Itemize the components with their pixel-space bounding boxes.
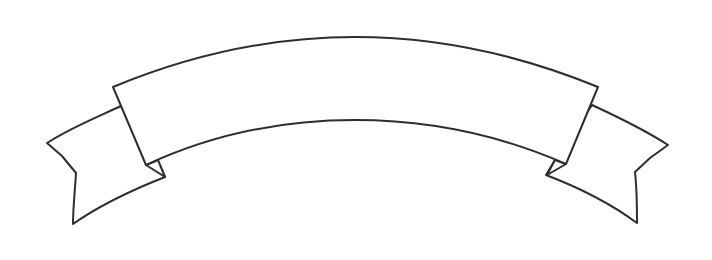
ribbon-banner [0,0,712,260]
ribbon-main-band [113,37,598,165]
